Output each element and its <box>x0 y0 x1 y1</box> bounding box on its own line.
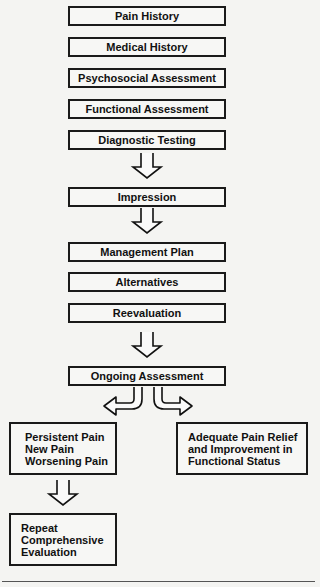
step-medical-history: Medical History <box>68 37 226 57</box>
branch-line: and Improvement in <box>188 443 306 455</box>
step-alternatives: Alternatives <box>68 272 226 292</box>
step-reevaluation: Reevaluation <box>68 303 226 323</box>
bottom-divider <box>2 581 315 582</box>
step-psychosocial-assessment: Psychosocial Assessment <box>68 68 226 88</box>
step-management-plan: Management Plan <box>68 242 226 262</box>
repeat-line: Comprehensive <box>21 534 115 546</box>
down-arrow-icon <box>131 208 163 234</box>
step-impression: Impression <box>68 187 226 207</box>
repeat-line: Evaluation <box>21 546 115 558</box>
down-arrow-icon <box>131 153 163 179</box>
step-pain-history: Pain History <box>68 6 226 26</box>
down-arrow-icon <box>131 332 163 358</box>
step-functional-assessment: Functional Assessment <box>68 99 226 119</box>
branch-line: Adequate Pain Relief <box>188 431 306 443</box>
branch-adequate-pain-relief: Adequate Pain Relief and Improvement in … <box>176 422 308 475</box>
step-repeat-comprehensive-evaluation: Repeat Comprehensive Evaluation <box>9 513 117 566</box>
down-arrow-icon <box>47 480 79 506</box>
curved-arrow-right-icon <box>150 387 194 417</box>
branch-persistent-new-worsening-pain: Persistent Pain New Pain Worsening Pain <box>9 422 117 475</box>
step-ongoing-assessment: Ongoing Assessment <box>68 366 226 386</box>
branch-line: Persistent Pain <box>25 431 115 443</box>
repeat-line: Repeat <box>21 522 115 534</box>
branch-line: New Pain <box>25 443 115 455</box>
branch-line: Functional Status <box>188 455 306 467</box>
branch-line: Worsening Pain <box>25 455 115 467</box>
curved-arrow-left-icon <box>102 387 146 417</box>
step-diagnostic-testing: Diagnostic Testing <box>68 130 226 150</box>
